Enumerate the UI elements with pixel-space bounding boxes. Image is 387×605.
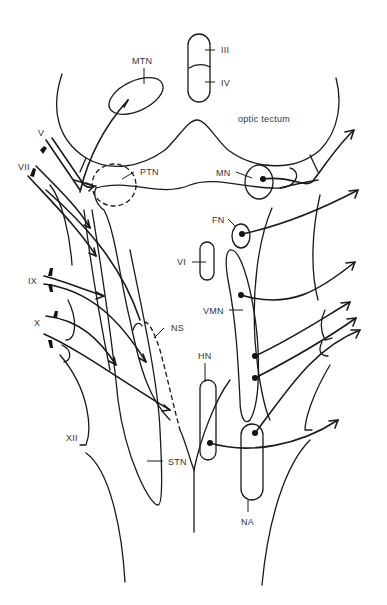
label-ptn: PTN: [140, 167, 159, 177]
nucleus-iii-iv: III IV: [188, 34, 230, 102]
label-ix: IX: [28, 276, 37, 286]
label-iii: III: [221, 45, 229, 55]
label-mtn: MTN: [132, 56, 152, 66]
label-optic-tectum: optic tectum: [238, 114, 290, 124]
label-fn: FN: [212, 215, 225, 225]
nucleus-vmn: VMN: [203, 250, 356, 422]
nucleus-mn: MN: [216, 130, 354, 199]
label-hn: HN: [198, 351, 212, 361]
nerve-ix-x: IX X: [28, 268, 170, 411]
label-vi: VI: [177, 257, 186, 267]
label-na: NA: [241, 517, 254, 527]
label-stn: STN: [168, 457, 187, 467]
brainstem-diagram: III IV MTN optic tectum PTN: [0, 0, 387, 605]
nerve-v-vii: V VII: [18, 128, 140, 320]
label-ns: NS: [171, 323, 184, 333]
brainstem-outline: [50, 168, 332, 585]
nucleus-stn: STN: [147, 457, 187, 467]
label-mn: MN: [216, 168, 231, 178]
label-iv: IV: [221, 78, 230, 88]
label-xii: XII: [66, 433, 78, 443]
label-v: V: [38, 128, 44, 138]
label-x: X: [34, 318, 40, 328]
label-vmn: VMN: [203, 306, 224, 316]
nucleus-fn: FN: [212, 190, 358, 248]
nucleus-vi: VI: [177, 242, 214, 280]
optic-tectum-outline: [57, 74, 339, 172]
label-vii: VII: [18, 162, 30, 172]
